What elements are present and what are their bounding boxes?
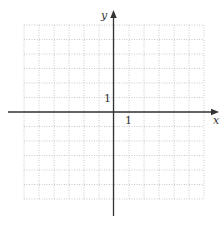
x-tick-label-1: 1 <box>125 114 132 127</box>
coordinate-plane: x y 1 1 <box>0 0 222 225</box>
x-axis-label: x <box>213 114 220 127</box>
y-axis-arrow-icon <box>110 10 116 18</box>
y-tick-label-1: 1 <box>104 92 111 105</box>
y-axis-label: y <box>100 9 108 22</box>
